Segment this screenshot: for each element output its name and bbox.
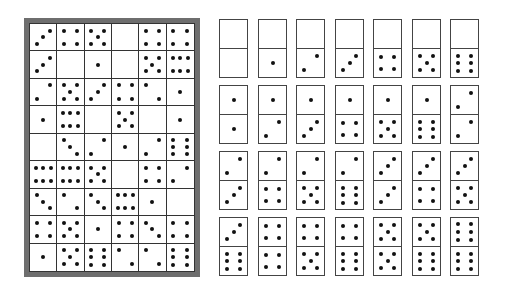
pip-icon bbox=[171, 248, 175, 252]
domino-tile-2-5[interactable] bbox=[296, 151, 325, 210]
domino-tile-5-5[interactable] bbox=[373, 217, 402, 276]
grid-cell[interactable] bbox=[112, 51, 139, 78]
grid-cell[interactable] bbox=[112, 189, 139, 216]
domino-tile-1-5[interactable] bbox=[373, 85, 402, 144]
grid-cell[interactable] bbox=[112, 244, 139, 271]
domino-tile-2-2[interactable] bbox=[450, 85, 479, 144]
grid-cell[interactable] bbox=[30, 216, 57, 243]
domino-tile-2-3[interactable] bbox=[219, 151, 248, 210]
pip-icon bbox=[354, 201, 358, 205]
grid-cell[interactable] bbox=[139, 216, 166, 243]
pip-icon bbox=[157, 42, 161, 46]
domino-top-half bbox=[259, 86, 286, 115]
grid-cell[interactable] bbox=[85, 106, 112, 133]
pip-icon bbox=[354, 54, 358, 58]
grid-cell[interactable] bbox=[112, 134, 139, 161]
grid-cell[interactable] bbox=[139, 51, 166, 78]
grid-cell[interactable] bbox=[112, 216, 139, 243]
pip-icon bbox=[62, 83, 66, 87]
domino-tile-1-2[interactable] bbox=[258, 85, 287, 144]
pip-icon bbox=[34, 179, 38, 183]
grid-cell[interactable] bbox=[139, 106, 166, 133]
grid-cell[interactable] bbox=[112, 24, 139, 51]
pip-icon bbox=[68, 166, 72, 170]
pip-icon bbox=[379, 171, 383, 175]
grid-cell[interactable] bbox=[85, 216, 112, 243]
grid-cell[interactable] bbox=[57, 216, 84, 243]
domino-tile-3-5[interactable] bbox=[450, 151, 479, 210]
grid-cell[interactable] bbox=[85, 51, 112, 78]
grid-cell[interactable] bbox=[57, 161, 84, 188]
domino-tile-0-0[interactable] bbox=[219, 19, 248, 78]
domino-tile-1-3[interactable] bbox=[296, 85, 325, 144]
grid-cell[interactable] bbox=[139, 79, 166, 106]
domino-tile-0-3[interactable] bbox=[335, 19, 364, 78]
pip-icon bbox=[425, 164, 429, 168]
grid-cell[interactable] bbox=[139, 161, 166, 188]
grid-cell[interactable] bbox=[30, 189, 57, 216]
domino-tile-2-6[interactable] bbox=[335, 151, 364, 210]
domino-tile-1-1[interactable] bbox=[219, 85, 248, 144]
pip-icon bbox=[178, 56, 182, 60]
domino-tile-5-6[interactable] bbox=[412, 217, 441, 276]
domino-tile-4-6[interactable] bbox=[335, 217, 364, 276]
grid-cell[interactable] bbox=[139, 134, 166, 161]
grid-cell[interactable] bbox=[30, 134, 57, 161]
domino-tile-6-6[interactable] bbox=[450, 217, 479, 276]
grid-cell[interactable] bbox=[57, 24, 84, 51]
grid-cell[interactable] bbox=[167, 216, 194, 243]
grid-cell[interactable] bbox=[167, 24, 194, 51]
grid-cell[interactable] bbox=[30, 79, 57, 106]
domino-tile-3-3[interactable] bbox=[373, 151, 402, 210]
grid-cell[interactable] bbox=[112, 106, 139, 133]
grid-cell[interactable] bbox=[57, 189, 84, 216]
domino-tile-4-5[interactable] bbox=[296, 217, 325, 276]
grid-cell[interactable] bbox=[85, 161, 112, 188]
grid-cell[interactable] bbox=[112, 79, 139, 106]
grid-cell[interactable] bbox=[167, 106, 194, 133]
grid-cell[interactable] bbox=[30, 161, 57, 188]
grid-cell[interactable] bbox=[167, 51, 194, 78]
grid-cell[interactable] bbox=[57, 106, 84, 133]
grid-cell[interactable] bbox=[167, 79, 194, 106]
pip-icon bbox=[144, 179, 148, 183]
pip-icon bbox=[341, 224, 345, 228]
grid-cell[interactable] bbox=[85, 134, 112, 161]
domino-tile-0-5[interactable] bbox=[412, 19, 441, 78]
domino-bottom-half bbox=[297, 248, 324, 276]
domino-tile-1-6[interactable] bbox=[412, 85, 441, 144]
domino-tile-3-6[interactable] bbox=[219, 217, 248, 276]
grid-cell[interactable] bbox=[85, 24, 112, 51]
grid-cell[interactable] bbox=[167, 161, 194, 188]
grid-cell[interactable] bbox=[85, 79, 112, 106]
grid-cell[interactable] bbox=[85, 244, 112, 271]
grid-cell[interactable] bbox=[139, 24, 166, 51]
grid-cell[interactable] bbox=[30, 106, 57, 133]
grid-cell[interactable] bbox=[30, 24, 57, 51]
grid-cell[interactable] bbox=[167, 244, 194, 271]
domino-tile-2-4[interactable] bbox=[258, 151, 287, 210]
grid-cell[interactable] bbox=[167, 134, 194, 161]
domino-tile-0-1[interactable] bbox=[258, 19, 287, 78]
grid-cell[interactable] bbox=[30, 51, 57, 78]
grid-cell[interactable] bbox=[85, 189, 112, 216]
pip-icon bbox=[379, 67, 383, 71]
domino-tile-4-4[interactable] bbox=[258, 217, 287, 276]
domino-tile-0-2[interactable] bbox=[296, 19, 325, 78]
domino-tile-3-4[interactable] bbox=[412, 151, 441, 210]
grid-cell[interactable] bbox=[30, 244, 57, 271]
grid-cell[interactable] bbox=[57, 134, 84, 161]
pip-icon bbox=[463, 193, 467, 197]
pip-icon bbox=[379, 266, 383, 270]
domino-tile-1-4[interactable] bbox=[335, 85, 364, 144]
grid-cell[interactable] bbox=[167, 189, 194, 216]
grid-cell[interactable] bbox=[112, 161, 139, 188]
pip-icon bbox=[469, 222, 473, 226]
grid-cell[interactable] bbox=[139, 189, 166, 216]
grid-cell[interactable] bbox=[57, 51, 84, 78]
grid-cell[interactable] bbox=[57, 244, 84, 271]
grid-cell[interactable] bbox=[139, 244, 166, 271]
domino-tile-0-4[interactable] bbox=[373, 19, 402, 78]
domino-tile-0-6[interactable] bbox=[450, 19, 479, 78]
grid-cell[interactable] bbox=[57, 79, 84, 106]
